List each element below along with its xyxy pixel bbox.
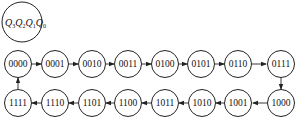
- state-label: 1101: [83, 98, 102, 108]
- state-label: 1000: [272, 98, 291, 108]
- legend-label: Q3Q2Q1Q0: [5, 17, 46, 29]
- state-node: 0110: [225, 51, 252, 78]
- state-label: 1111: [9, 98, 27, 108]
- state-label: 1001: [229, 98, 248, 108]
- state-node: 1110: [42, 90, 69, 117]
- state-node: 0010: [79, 51, 106, 78]
- state-node: 0111: [268, 51, 295, 78]
- state-label: 0010: [83, 59, 102, 69]
- state-node: 0101: [188, 51, 215, 78]
- state-label: 1110: [46, 98, 65, 108]
- state-label: 1010: [193, 98, 212, 108]
- state-node: 0000: [5, 51, 32, 78]
- state-label: 0110: [229, 59, 248, 69]
- state-diagram: Q3Q2Q1Q0 0000 0001 0010 0011 0100 0101 0…: [0, 0, 303, 123]
- state-node: 1000: [268, 90, 295, 117]
- legend-node: Q3Q2Q1Q0: [2, 2, 46, 42]
- state-node: 1010: [189, 90, 216, 117]
- state-node: 1101: [79, 90, 106, 117]
- state-node: 0011: [115, 51, 142, 78]
- state-label: 1011: [156, 98, 175, 108]
- state-label: 0001: [46, 59, 65, 69]
- state-label: 0101: [192, 59, 211, 69]
- state-label: 0111: [272, 59, 291, 69]
- state-node: 1001: [225, 90, 252, 117]
- state-node: 1011: [152, 90, 179, 117]
- state-label: 0000: [9, 59, 28, 69]
- state-node: 1111: [5, 90, 32, 117]
- state-node: 1100: [115, 90, 142, 117]
- state-label: 1100: [119, 98, 138, 108]
- state-label: 0100: [156, 59, 175, 69]
- state-node: 0100: [152, 51, 179, 78]
- state-node: 0001: [42, 51, 69, 78]
- state-label: 0011: [119, 59, 138, 69]
